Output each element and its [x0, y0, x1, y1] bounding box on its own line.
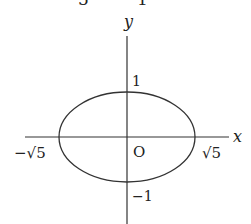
y-axis-label: y	[123, 12, 134, 31]
top-fragment-left: 5	[78, 0, 89, 9]
x-axis-label: x	[233, 127, 242, 146]
x-tick-negative: −√5	[14, 144, 46, 162]
x-tick-positive: √5	[202, 144, 221, 162]
ellipse-diagram: 5 1 y x O 1 −1 −√5 √5	[0, 0, 251, 224]
origin-label: O	[133, 143, 145, 161]
y-tick-negative: −1	[132, 188, 153, 204]
top-fragment-right: 1	[137, 0, 148, 9]
y-tick-positive: 1	[132, 73, 141, 89]
